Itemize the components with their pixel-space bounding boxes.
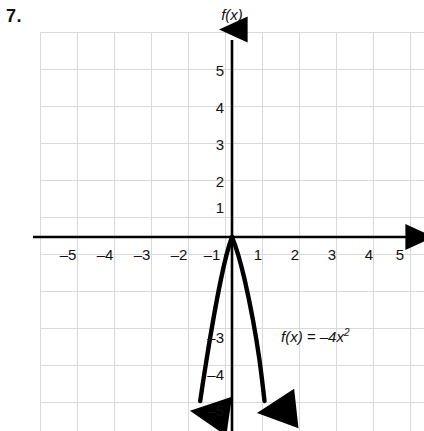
- x-tick-label-neg4: –4: [97, 246, 114, 263]
- y-tick-label-neg5: –5: [198, 402, 224, 419]
- y-tick-label-5: 5: [204, 62, 224, 79]
- worksheet-page: 7. f(x) –5 –4 –3 –2 –1 1 2 3 4 5: [0, 0, 424, 431]
- x-tick-label-neg1: –1: [204, 246, 221, 263]
- x-tick-label-neg5: –5: [60, 246, 77, 263]
- x-tick-label-neg2: –2: [171, 246, 188, 263]
- x-tick-label-3: 3: [328, 246, 336, 263]
- equation-base: f(x) = –4x: [281, 328, 344, 345]
- y-tick-label-2: 2: [204, 173, 224, 190]
- y-tick-label-neg3: –3: [198, 329, 224, 346]
- x-tick-label-1: 1: [254, 246, 262, 263]
- equation-exponent: 2: [344, 327, 350, 338]
- x-tick-label-neg3: –3: [134, 246, 151, 263]
- x-tick-label-5: 5: [396, 246, 404, 263]
- y-tick-label-4: 4: [204, 99, 224, 116]
- y-tick-label-neg4: –4: [198, 366, 224, 383]
- y-tick-label-1: 1: [204, 199, 224, 216]
- function-equation-label: f(x) = –4x2: [281, 327, 350, 345]
- x-tick-label-2: 2: [291, 246, 299, 263]
- x-tick-label-4: 4: [365, 246, 373, 263]
- y-tick-label-3: 3: [204, 136, 224, 153]
